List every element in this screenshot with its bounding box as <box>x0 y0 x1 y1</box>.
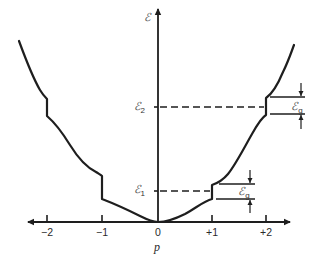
x-tick-label-plus-1: +1 <box>206 226 218 238</box>
dispersion-curve-right <box>158 45 294 222</box>
gap-lower-label: ℰg <box>238 185 249 200</box>
level-e1-label: ℰ1 <box>134 183 146 198</box>
level-e1-subscript: 1 <box>141 189 146 198</box>
x-tick-label-minus-1: −1 <box>96 226 108 238</box>
level-e2-subscript: 2 <box>141 106 146 115</box>
dispersion-diagram: −2 −1 0 +1 +2 p ℰ ℰ2 ℰ1 ℰg ℰg <box>0 0 321 262</box>
x-tick-label-zero: 0 <box>155 226 161 238</box>
level-e2-label: ℰ2 <box>134 100 146 115</box>
x-axis-label: p <box>153 240 160 254</box>
gap-lower-subscript: g <box>245 191 249 200</box>
x-tick-label-plus-2: +2 <box>260 226 272 238</box>
y-axis-label: ℰ <box>144 11 152 23</box>
x-tick-label-minus-2: −2 <box>41 226 53 238</box>
gap-upper-subscript: g <box>298 106 302 115</box>
gap-upper-label: ℰg <box>291 100 302 115</box>
